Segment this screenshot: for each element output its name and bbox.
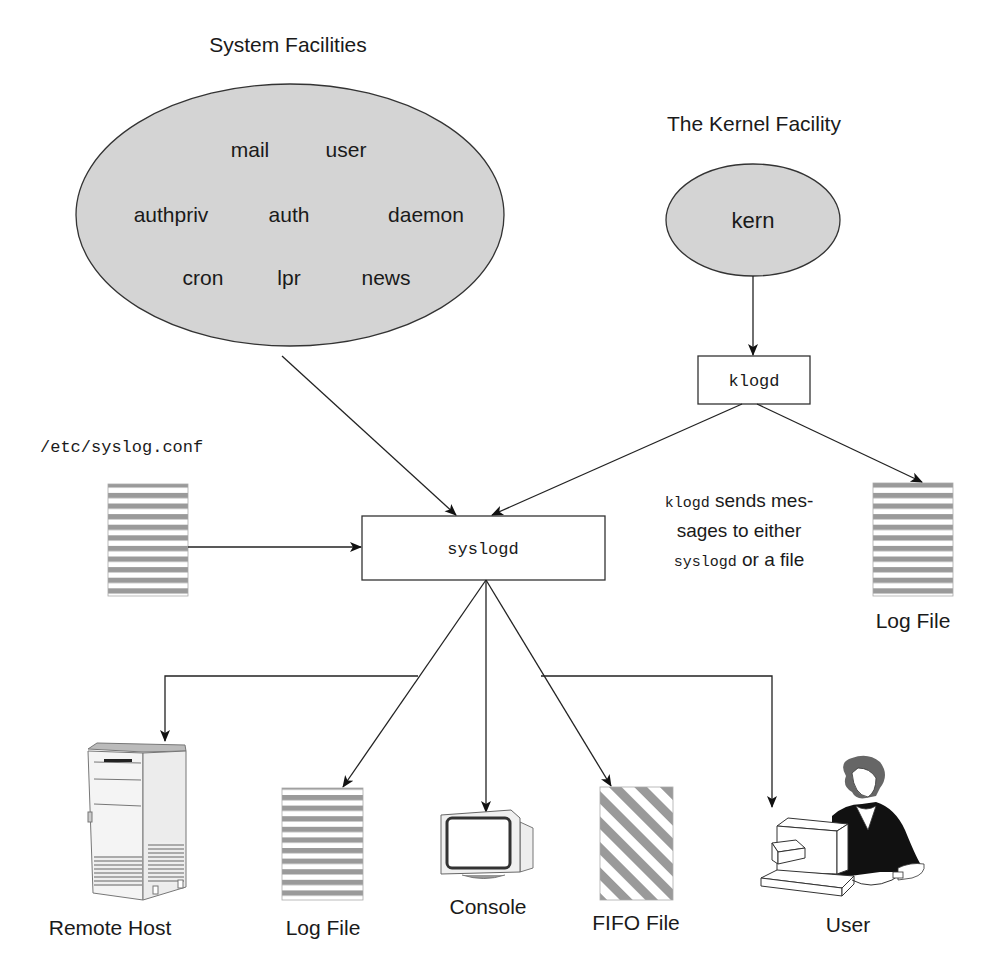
log-file-icon xyxy=(282,788,363,900)
klogd-node: klogd xyxy=(698,356,810,404)
facility-user: user xyxy=(326,138,367,161)
config-file-node: /etc/syslog.conf xyxy=(40,438,203,596)
klogd-label: klogd xyxy=(728,372,779,391)
console-node: Console xyxy=(441,810,533,918)
config-file-label: /etc/syslog.conf xyxy=(40,438,203,457)
system-facilities-group: System Facilities mail user authpriv aut… xyxy=(76,33,504,346)
server-icon xyxy=(88,743,186,900)
log-file-icon xyxy=(873,483,953,596)
kernel-facility-title: The Kernel Facility xyxy=(667,112,841,135)
user-at-terminal-icon xyxy=(761,756,924,896)
annotation-line-3: syslogd or a file xyxy=(674,549,805,571)
edge-facilities-to-syslogd xyxy=(282,356,456,515)
console-label: Console xyxy=(449,895,526,918)
syslogd-label: syslogd xyxy=(447,540,518,559)
edge-klogd-to-log-file xyxy=(757,404,922,482)
facility-lpr: lpr xyxy=(277,266,300,289)
annotation-line-1: klogd sends mes- xyxy=(665,490,814,512)
remote-host-label: Remote Host xyxy=(49,916,172,939)
monitor-icon xyxy=(441,810,533,879)
kernel-facility-group: The Kernel Facility kern xyxy=(666,112,841,276)
log-file-node: Log File xyxy=(282,788,363,939)
facility-auth: auth xyxy=(269,203,310,226)
facility-kern: kern xyxy=(732,208,775,233)
edge-syslogd-to-log-file xyxy=(343,580,486,787)
facility-daemon: daemon xyxy=(388,203,464,226)
fifo-file-node: FIFO File xyxy=(592,787,680,934)
facility-authpriv: authpriv xyxy=(134,203,209,226)
klogd-log-file-label: Log File xyxy=(876,609,951,632)
user-label: User xyxy=(826,913,870,936)
facility-mail: mail xyxy=(231,138,270,161)
syslog-architecture-diagram: System Facilities mail user authpriv aut… xyxy=(0,0,995,974)
fifo-file-icon xyxy=(600,787,673,900)
config-file-icon xyxy=(108,484,188,596)
system-facilities-title: System Facilities xyxy=(209,33,367,56)
remote-host-node: Remote Host xyxy=(49,743,186,939)
klogd-annotation: klogd sends mes- sages to either syslogd… xyxy=(665,490,814,571)
fifo-file-label: FIFO File xyxy=(592,911,680,934)
syslogd-node: syslogd xyxy=(362,516,605,580)
facility-news: news xyxy=(361,266,410,289)
edge-syslogd-to-fifo xyxy=(486,580,611,786)
user-node: User xyxy=(761,756,924,936)
edge-syslogd-to-remote-host xyxy=(165,676,418,741)
facility-cron: cron xyxy=(183,266,224,289)
log-file-label: Log File xyxy=(286,916,361,939)
klogd-log-file-node: Log File xyxy=(873,483,953,632)
annotation-line-2: sages to either xyxy=(677,520,802,541)
